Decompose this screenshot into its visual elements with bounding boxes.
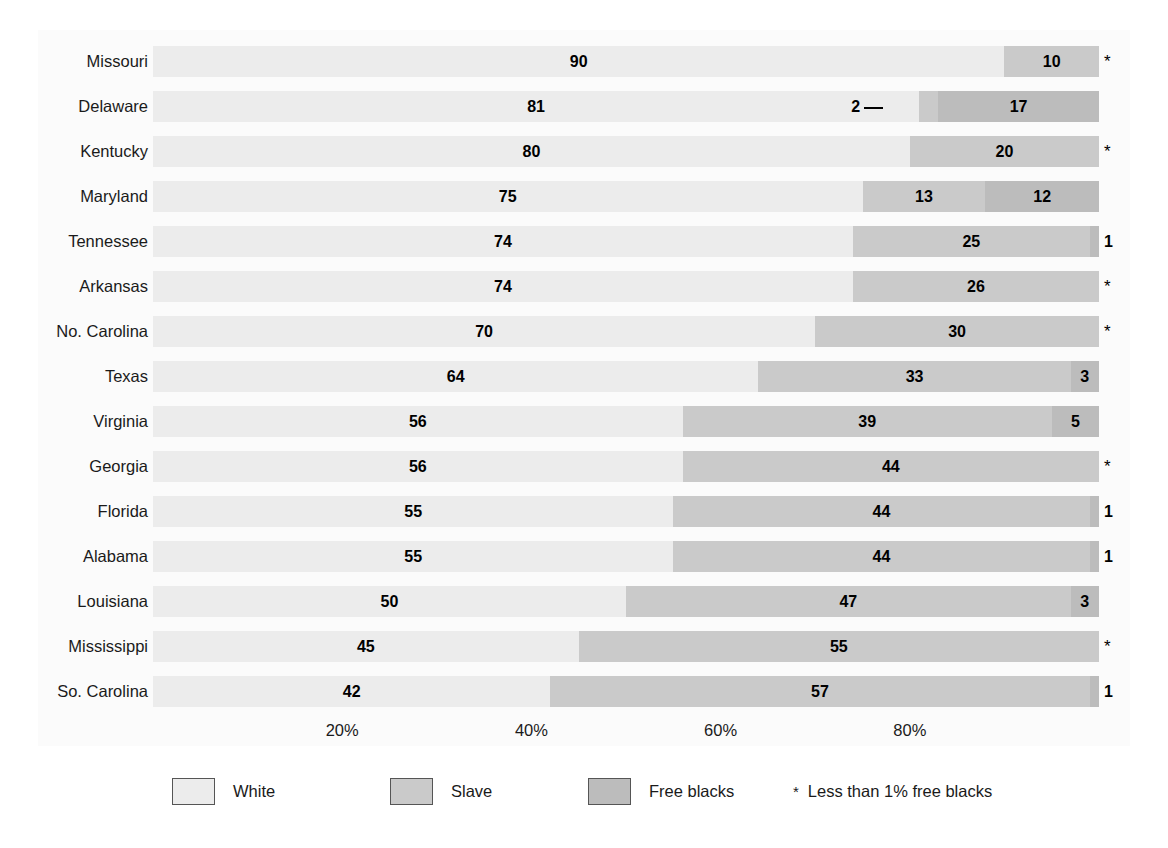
bar-track: 7030 bbox=[153, 316, 1099, 347]
segment-value-free-blacks: 3 bbox=[1071, 361, 1099, 392]
segment-value-white: 75 bbox=[153, 181, 863, 212]
segment-value-slave: 33 bbox=[758, 361, 1070, 392]
bar-track: 81217 bbox=[153, 91, 1099, 122]
row-label-missouri: Missouri bbox=[0, 46, 148, 77]
legend-swatch-icon bbox=[390, 778, 433, 805]
segment-value-white: 81 bbox=[153, 91, 919, 122]
segment-value-white: 74 bbox=[153, 226, 853, 257]
segment-value-free-blacks: 17 bbox=[938, 91, 1099, 122]
chart-legend: WhiteSlaveFree blacks*Less than 1% free … bbox=[0, 776, 1168, 816]
segment-value-free-blacks: 1 bbox=[1104, 541, 1113, 572]
bar-row: Tennessee74251 bbox=[0, 226, 1168, 271]
segment-value-slave: 2 bbox=[851, 98, 860, 115]
segment-value-white: 64 bbox=[153, 361, 758, 392]
bar-row: Arkansas7426* bbox=[0, 271, 1168, 316]
row-label-georgia: Georgia bbox=[0, 451, 148, 482]
bar-track: 56395 bbox=[153, 406, 1099, 437]
row-label-virginia: Virginia bbox=[0, 406, 148, 437]
bar-track: 5544 bbox=[153, 496, 1099, 527]
segment-value-slave: 39 bbox=[683, 406, 1052, 437]
bar-rows-container: Missouri9010*Delaware81217Kentucky8020*M… bbox=[0, 46, 1168, 721]
bar-row: Maryland751312 bbox=[0, 181, 1168, 226]
bar-row: Georgia5644* bbox=[0, 451, 1168, 496]
bar-track: 7426 bbox=[153, 271, 1099, 302]
x-tick-label-40: 40% bbox=[515, 721, 548, 740]
legend-item-slave: Slave bbox=[390, 776, 492, 806]
leader-line bbox=[864, 107, 883, 109]
footnote-star-marker: * bbox=[1104, 316, 1111, 347]
segment-value-free-blacks: 12 bbox=[985, 181, 1099, 212]
x-tick-label-80: 80% bbox=[893, 721, 926, 740]
segment-value-slave-leader: 2 bbox=[851, 91, 887, 122]
bar-track: 751312 bbox=[153, 181, 1099, 212]
row-label-so-carolina: So. Carolina bbox=[0, 676, 148, 707]
legend-swatch-icon bbox=[588, 778, 631, 805]
bar-row: Mississippi4555* bbox=[0, 631, 1168, 676]
segment-value-white: 42 bbox=[153, 676, 550, 707]
segment-value-free-blacks: 1 bbox=[1104, 226, 1113, 257]
bar-track: 8020 bbox=[153, 136, 1099, 167]
bar-row: So. Carolina42571 bbox=[0, 676, 1168, 721]
row-label-mississippi: Mississippi bbox=[0, 631, 148, 662]
footnote-star-icon: * bbox=[793, 783, 799, 800]
legend-label: Slave bbox=[451, 782, 492, 801]
bar-track: 7425 bbox=[153, 226, 1099, 257]
legend-label: White bbox=[233, 782, 275, 801]
bar-row: Delaware81217 bbox=[0, 91, 1168, 136]
bar-track: 5544 bbox=[153, 541, 1099, 572]
stacked-bar-chart: Missouri9010*Delaware81217Kentucky8020*M… bbox=[0, 0, 1168, 848]
segment-value-white: 90 bbox=[153, 46, 1004, 77]
segment-value-white: 74 bbox=[153, 271, 853, 302]
x-tick-label-60: 60% bbox=[704, 721, 737, 740]
bar-track: 50473 bbox=[153, 586, 1099, 617]
bar-track: 9010 bbox=[153, 46, 1099, 77]
segment-value-slave: 44 bbox=[673, 541, 1089, 572]
segment-value-white: 45 bbox=[153, 631, 579, 662]
footnote-star-marker: * bbox=[1104, 451, 1111, 482]
segment-value-slave: 55 bbox=[579, 631, 1099, 662]
bar-row: No. Carolina7030* bbox=[0, 316, 1168, 361]
segment-free-blacks bbox=[1090, 676, 1099, 707]
legend-item-free-blacks: Free blacks bbox=[588, 776, 734, 806]
footnote-star-marker: * bbox=[1104, 271, 1111, 302]
segment-value-slave: 25 bbox=[853, 226, 1090, 257]
footnote-star-marker: * bbox=[1104, 631, 1111, 662]
segment-free-blacks bbox=[1090, 226, 1099, 257]
x-tick-label-20: 20% bbox=[326, 721, 359, 740]
row-label-florida: Florida bbox=[0, 496, 148, 527]
segment-value-slave: 47 bbox=[626, 586, 1071, 617]
segment-value-white: 80 bbox=[153, 136, 910, 167]
segment-value-slave: 44 bbox=[683, 451, 1099, 482]
segment-value-free-blacks: 1 bbox=[1104, 676, 1113, 707]
bar-track: 64333 bbox=[153, 361, 1099, 392]
row-label-kentucky: Kentucky bbox=[0, 136, 148, 167]
segment-value-white: 55 bbox=[153, 541, 673, 572]
bar-track: 5644 bbox=[153, 451, 1099, 482]
segment-value-free-blacks: 1 bbox=[1104, 496, 1113, 527]
bar-row: Alabama55441 bbox=[0, 541, 1168, 586]
bar-row: Louisiana50473 bbox=[0, 586, 1168, 631]
row-label-texas: Texas bbox=[0, 361, 148, 392]
bar-row: Missouri9010* bbox=[0, 46, 1168, 91]
segment-free-blacks bbox=[1090, 496, 1099, 527]
legend-swatch-icon bbox=[172, 778, 215, 805]
bar-row: Florida55441 bbox=[0, 496, 1168, 541]
row-label-arkansas: Arkansas bbox=[0, 271, 148, 302]
row-label-maryland: Maryland bbox=[0, 181, 148, 212]
row-label-alabama: Alabama bbox=[0, 541, 148, 572]
footnote-text: Less than 1% free blacks bbox=[808, 782, 992, 801]
segment-value-white: 55 bbox=[153, 496, 673, 527]
segment-value-slave: 30 bbox=[815, 316, 1099, 347]
legend-footnote: *Less than 1% free blacks bbox=[793, 776, 992, 806]
footnote-star-marker: * bbox=[1104, 136, 1111, 167]
segment-value-white: 50 bbox=[153, 586, 626, 617]
segment-value-slave: 26 bbox=[853, 271, 1099, 302]
segment-value-white: 56 bbox=[153, 451, 683, 482]
row-label-no-carolina: No. Carolina bbox=[0, 316, 148, 347]
row-label-tennessee: Tennessee bbox=[0, 226, 148, 257]
bar-row: Texas64333 bbox=[0, 361, 1168, 406]
segment-value-slave: 10 bbox=[1004, 46, 1099, 77]
segment-value-white: 56 bbox=[153, 406, 683, 437]
bar-row: Kentucky8020* bbox=[0, 136, 1168, 181]
segment-slave bbox=[919, 91, 938, 122]
